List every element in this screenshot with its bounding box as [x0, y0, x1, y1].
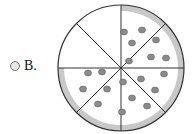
pizza-figure	[0, 0, 192, 134]
